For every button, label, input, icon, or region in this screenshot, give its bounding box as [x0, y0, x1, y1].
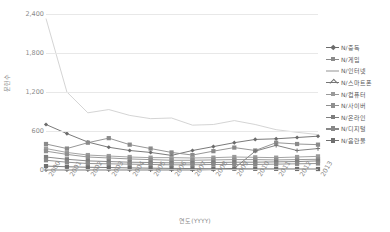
- legend-marker-icon: [326, 136, 339, 145]
- legend-label: N/온라인: [341, 113, 366, 122]
- legend-item[interactable]: N/스마트폰: [326, 77, 390, 89]
- legend-item[interactable]: N/게임: [326, 54, 390, 66]
- legend-label: N/중독: [341, 43, 360, 52]
- legend-item[interactable]: N/온라인: [326, 112, 390, 124]
- x-tick-label: 2006: [173, 160, 188, 178]
- y-axis-ticks: 06001,2001,8002,400: [0, 14, 44, 170]
- legend-label: N/사이버: [341, 101, 366, 110]
- y-tick-label: 600: [4, 127, 44, 135]
- x-tick-label: 2001: [68, 160, 83, 178]
- x-tick-label: 2012: [298, 160, 313, 178]
- x-tick-label: 2007: [193, 160, 208, 178]
- legend-marker-icon: [326, 101, 339, 110]
- legend-label: N/디지털: [341, 124, 366, 133]
- legend-label: N/스마트폰: [341, 78, 372, 87]
- legend-item[interactable]: N/컴퓨터: [326, 88, 390, 100]
- legend-marker-icon: [326, 90, 339, 99]
- legend-item[interactable]: N/인터넷: [326, 65, 390, 77]
- legend-marker-icon: [326, 66, 339, 75]
- legend-marker-icon: [326, 124, 339, 133]
- legend-item[interactable]: N/디지털: [326, 123, 390, 135]
- y-tick-label: 2,400: [4, 10, 44, 18]
- legend-marker-icon: [326, 113, 339, 122]
- x-tick-label: 2000: [47, 160, 62, 178]
- y-tick-label: 1,200: [4, 88, 44, 96]
- legend-label: N/인터넷: [341, 66, 366, 75]
- legend-item[interactable]: N/음란물: [326, 135, 390, 147]
- x-axis-title: 연도(YYYY): [60, 216, 330, 225]
- legend-marker-icon: [326, 55, 339, 64]
- legend-label: N/컴퓨터: [341, 90, 366, 99]
- legend: N/중독N/게임N/인터넷N/스마트폰N/컴퓨터N/사이버N/온라인N/디지털N…: [326, 42, 390, 146]
- x-tick-label: 2011: [277, 160, 292, 178]
- x-tick-label: 2004: [131, 160, 146, 178]
- x-tick-label: 2008: [214, 160, 229, 178]
- x-tick-label: 2010: [256, 160, 271, 178]
- legend-item[interactable]: N/사이버: [326, 100, 390, 112]
- x-tick-label: 2009: [235, 160, 250, 178]
- x-tick-label: 2013: [319, 160, 334, 178]
- legend-label: N/음란물: [341, 136, 366, 145]
- legend-label: N/게임: [341, 55, 360, 64]
- x-tick-label: 2005: [152, 160, 167, 178]
- x-tick-label: 2003: [110, 160, 125, 178]
- chart-container: 문헌수 06001,2001,8002,400 2000200120022003…: [0, 0, 390, 232]
- x-axis-ticks: 2000200120022003200420052006200720082009…: [46, 0, 318, 232]
- legend-marker-icon: [326, 43, 339, 52]
- y-tick-label: 0: [4, 166, 44, 174]
- legend-marker-icon: [326, 78, 339, 87]
- x-tick-label: 2002: [89, 160, 104, 178]
- y-tick-label: 1,800: [4, 49, 44, 57]
- legend-item[interactable]: N/중독: [326, 42, 390, 54]
